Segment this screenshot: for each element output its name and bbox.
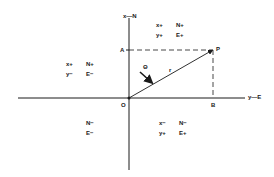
horizontal-axis-label: y—E xyxy=(248,94,261,100)
vector-r xyxy=(129,51,211,98)
sign-x: x+ xyxy=(156,22,176,32)
angle-label: Θ xyxy=(143,64,148,70)
sign-y: y+ xyxy=(156,32,176,42)
sign-n: N− xyxy=(179,120,197,130)
point-label-a: A xyxy=(120,47,124,53)
sign-n: N+ xyxy=(176,22,194,32)
quadrant-upper-left: x+N+ y−E− xyxy=(66,61,104,81)
vector-length-label: r xyxy=(169,67,171,73)
sign-y: y+ xyxy=(159,130,179,140)
sign-x: x+ xyxy=(66,61,86,71)
sign-x xyxy=(66,120,86,130)
sign-e: E− xyxy=(86,71,104,81)
sign-x: x− xyxy=(159,120,179,130)
point-label-b: B xyxy=(211,102,215,108)
point-label-p: P xyxy=(216,46,220,52)
origin-dot xyxy=(128,97,131,100)
quadrant-upper-right: x+N+ y+E+ xyxy=(156,22,194,42)
sign-e: E− xyxy=(86,130,104,140)
sign-n: N− xyxy=(86,120,104,130)
sign-n: N+ xyxy=(86,61,104,71)
quadrant-lower-left: N− E− xyxy=(66,120,104,140)
quadrant-lower-right: x−N− y+E+ xyxy=(159,120,197,140)
sign-e: E+ xyxy=(179,130,197,140)
sign-y: y− xyxy=(66,71,86,81)
point-label-o: O xyxy=(121,102,126,108)
vertical-axis-label: x—N xyxy=(123,13,137,19)
sign-y xyxy=(66,130,86,140)
coordinate-diagram xyxy=(0,0,274,177)
sign-e: E+ xyxy=(176,32,194,42)
angle-arrow-icon xyxy=(140,72,150,81)
